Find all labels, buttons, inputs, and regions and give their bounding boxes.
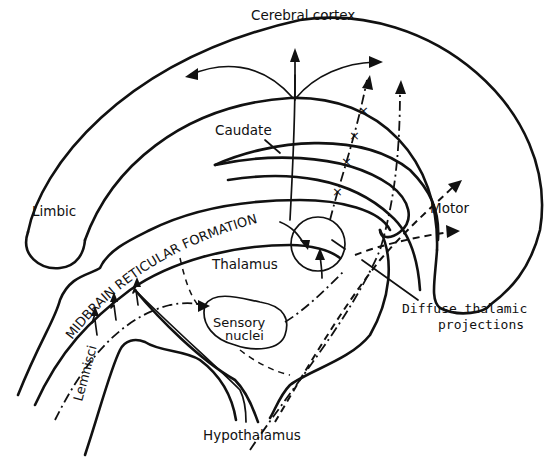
arrowhead-right-fan — [369, 56, 383, 68]
arrowhead-crossed — [362, 75, 373, 90]
left-fan-arrow — [190, 67, 293, 98]
arrowhead-diffuse-motor — [446, 225, 460, 238]
label-diffuse-2: projections — [438, 317, 524, 332]
crossed-pathway-line — [330, 80, 367, 220]
sensory-to-thalamus-line — [285, 270, 345, 322]
x-mark: × — [358, 103, 369, 118]
label-motor: Motor — [430, 200, 469, 216]
neuroanatomy-diagram: × × × × Cerebral cortex Caudate Limbic M… — [0, 0, 553, 466]
reticular-to-sensory-dashed — [180, 258, 198, 305]
diagram-canvas: × × × × Cerebral cortex Caudate Limbic M… — [0, 0, 553, 466]
arrowhead-lemniscal-cortex — [395, 80, 406, 94]
right-fan-arrow — [296, 62, 375, 98]
arrowhead-left-fan — [185, 68, 198, 80]
thalamus-outline — [135, 290, 258, 422]
label-limbic: Limbic — [32, 203, 76, 219]
x-mark: × — [332, 184, 343, 199]
thalamus-right-outline — [270, 230, 389, 418]
sensory-lower-dashed — [240, 350, 290, 375]
arrowhead-up-center — [290, 48, 300, 62]
x-mark: × — [349, 128, 360, 143]
label-diffuse-1: Diffuse thalamic — [402, 301, 527, 316]
label-sensory-nuclei-2: nuclei — [225, 328, 264, 343]
label-lemnisci: Lemnisci — [70, 344, 99, 403]
label-hypothalamus: Hypothalamus — [203, 427, 301, 443]
label-cerebral-cortex: Cerebral cortex — [251, 7, 355, 23]
cortex-inner-outline — [85, 98, 437, 250]
label-thalamus: Thalamus — [211, 256, 278, 272]
diffuse-pointer-short — [332, 240, 345, 249]
x-mark: × — [341, 154, 352, 169]
limbic-lobe-cap — [26, 232, 85, 268]
caudate-arc-lower — [228, 176, 420, 290]
label-caudate: Caudate — [215, 122, 272, 138]
cortex-outer-outline — [28, 18, 542, 305]
